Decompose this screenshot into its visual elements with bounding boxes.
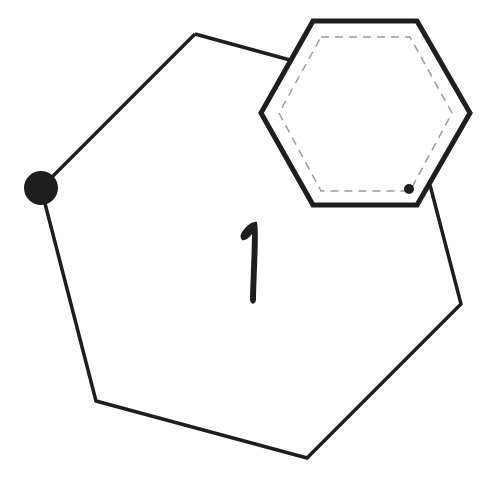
- large-heptagon-outline: [195, 34, 290, 60]
- small-hexagon: [261, 21, 470, 205]
- handwritten-number-1: [241, 222, 258, 304]
- vertex-node: [24, 171, 58, 205]
- small-dot-marker: [404, 184, 414, 194]
- diagram-canvas: [0, 0, 482, 489]
